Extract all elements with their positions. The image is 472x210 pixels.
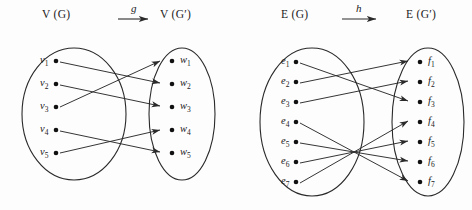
node-dot-w1 — [170, 59, 175, 64]
node-dot-e1 — [294, 60, 299, 65]
node-dot-f6 — [418, 160, 423, 165]
node-dot-e3 — [294, 100, 299, 105]
edge-e7-to-f4 — [300, 121, 408, 183]
node-dot-f1 — [418, 60, 423, 65]
diagram-graphics — [0, 0, 472, 210]
node-dot-w4 — [170, 128, 175, 133]
edge-v2-to-w3 — [60, 85, 160, 106]
node-dot-v4 — [54, 128, 59, 133]
figure-canvas: V (G) g V (G′) E (G) h E (G′) — [0, 0, 472, 210]
node-dot-f7 — [418, 180, 423, 185]
node-dot-f3 — [418, 100, 423, 105]
node-dot-w2 — [170, 82, 175, 87]
node-dot-w5 — [170, 151, 175, 156]
node-label-w1: w1 — [180, 54, 191, 68]
node-label-w5: w5 — [180, 146, 191, 160]
node-label-f2: f2 — [428, 75, 435, 89]
node-dot-e7 — [294, 180, 299, 185]
node-dot-e2 — [294, 80, 299, 85]
edge-v3-to-w1 — [60, 61, 160, 107]
node-dot-e4 — [294, 120, 299, 125]
node-label-f4: f4 — [428, 115, 435, 129]
node-label-e2: e2 — [281, 75, 289, 89]
node-label-f5: f5 — [428, 135, 435, 149]
node-label-v2: v2 — [40, 77, 48, 91]
edge-e2-to-f1 — [300, 61, 408, 83]
edge-e1-to-f3 — [300, 63, 408, 101]
node-dot-f5 — [418, 140, 423, 145]
edge-v1-to-w2 — [60, 62, 160, 83]
node-dot-e6 — [294, 160, 299, 165]
node-label-e5: e5 — [281, 135, 289, 149]
node-label-f3: f3 — [428, 95, 435, 109]
node-label-v3: v3 — [40, 100, 48, 114]
node-dot-v1 — [54, 59, 59, 64]
node-label-w2: w2 — [180, 77, 191, 91]
edge-v5-to-w4 — [60, 130, 160, 153]
node-label-e6: e6 — [281, 155, 289, 169]
node-dot-f2 — [418, 80, 423, 85]
node-label-f1: f1 — [428, 55, 435, 69]
node-label-f6: f6 — [428, 155, 435, 169]
node-label-e3: e3 — [281, 95, 289, 109]
node-dot-v3 — [54, 105, 59, 110]
node-label-e4: e4 — [281, 115, 289, 129]
node-dot-w3 — [170, 105, 175, 110]
edge-domain-ellipse — [260, 48, 364, 196]
edge-e3-to-f2 — [300, 81, 408, 103]
node-label-w3: w3 — [180, 100, 191, 114]
node-label-e1: e1 — [281, 55, 289, 69]
node-label-w4: w4 — [180, 123, 191, 137]
node-label-v4: v4 — [40, 123, 48, 137]
node-dot-e5 — [294, 140, 299, 145]
node-dot-f4 — [418, 120, 423, 125]
node-label-e7: e7 — [281, 175, 289, 189]
node-label-v5: v5 — [40, 146, 48, 160]
vertex-domain-ellipse — [22, 48, 126, 180]
node-label-f7: f7 — [428, 175, 435, 189]
node-dot-v5 — [54, 151, 59, 156]
node-label-v1: v1 — [40, 54, 48, 68]
node-dot-v2 — [54, 82, 59, 87]
